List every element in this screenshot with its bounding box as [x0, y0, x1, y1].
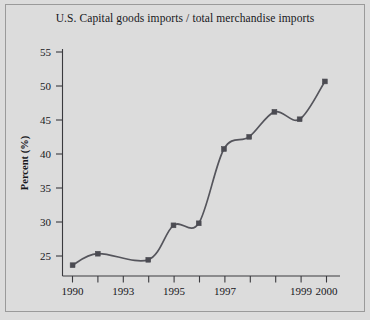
series-line: [73, 81, 325, 265]
y-tick-label: 40: [40, 148, 52, 160]
data-point: [297, 117, 302, 122]
y-axis-tick-labels: 55 50 45 40 35 30 25: [40, 46, 52, 262]
y-tick-label: 45: [40, 114, 52, 126]
x-tick-label: 1993: [112, 285, 135, 297]
x-tick-label: 1990: [62, 285, 85, 297]
x-tick-label: 1999: [290, 285, 313, 297]
data-point: [171, 223, 176, 228]
y-tick-label: 50: [40, 80, 52, 92]
y-tick-label: 35: [40, 182, 52, 194]
data-point: [222, 147, 227, 152]
x-tick-label: 2000: [316, 285, 339, 297]
data-point: [196, 221, 201, 226]
y-tick-label: 25: [40, 250, 52, 262]
data-point: [322, 79, 327, 84]
line-chart-plot: 55 50 45 40 35 30 25 Percent (%) 1990: [0, 0, 370, 320]
y-axis-ticks: [56, 52, 63, 256]
y-tick-label: 30: [40, 216, 52, 228]
data-point: [247, 134, 252, 139]
x-axis-tick-labels: 1990 1993 1995 1997 1999 2000: [62, 285, 339, 297]
x-axis-ticks: [73, 276, 327, 283]
y-tick-label: 55: [40, 46, 52, 58]
series-markers: [70, 79, 327, 268]
data-point: [70, 263, 75, 268]
y-axis-title: Percent (%): [19, 135, 31, 190]
data-point: [272, 109, 277, 114]
x-tick-label: 1997: [214, 285, 237, 297]
data-point: [146, 257, 151, 262]
data-point: [95, 251, 100, 256]
chart-figure: U.S. Capital goods imports / total merch…: [0, 0, 370, 320]
x-tick-label: 1995: [163, 285, 186, 297]
